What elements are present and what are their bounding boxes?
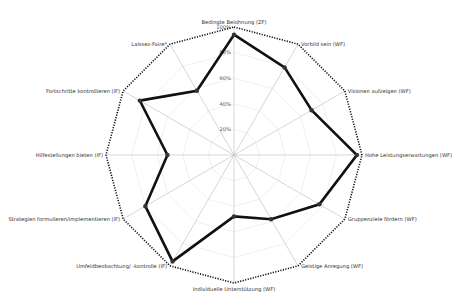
data-point [170, 259, 174, 263]
profile-series [140, 35, 357, 262]
axis-label: Vorbild sein (WF) [301, 41, 345, 47]
tick-label: 60% [219, 75, 231, 81]
data-point [232, 32, 236, 36]
axis-label: Fortschritte kontrollieren (IF) [46, 88, 120, 94]
data-point [232, 214, 236, 218]
axis-spoke [234, 155, 298, 266]
axis-label: Geistige Anregung (WF) [301, 263, 363, 270]
axis-labels: Bedingte Belohnung (ZF)Vorbild sein (WF)… [8, 19, 452, 293]
data-point [282, 65, 286, 69]
axis-spoke [234, 44, 298, 155]
data-point [143, 204, 147, 208]
axis-label: Hilfestellungen bieten (IF) [36, 152, 103, 159]
axis-spoke [234, 91, 345, 155]
data-point [138, 98, 142, 102]
radar-spokes [106, 27, 362, 283]
axis-label: Laissez-Faire* [131, 41, 167, 47]
axis-spoke [234, 155, 345, 219]
data-point [195, 89, 199, 93]
axis-label: Bedingte Belohnung (ZF) [202, 19, 267, 26]
radar-chart: 20%40%60%80%100% Bedingte Belohnung (ZF)… [0, 0, 458, 301]
data-point [165, 153, 169, 157]
axis-label: Umfeldbeobachtung/ -kontrolle (IF) [76, 263, 167, 270]
axis-spoke [170, 155, 234, 266]
axis-spoke [170, 44, 234, 155]
data-point [317, 202, 321, 206]
axis-label: Gruppenziele fördern (WF) [348, 216, 417, 223]
series-markers [138, 32, 360, 263]
axis-label: Visionen aufzeigen (WF) [348, 88, 411, 95]
data-point [269, 217, 273, 221]
tick-label: 40% [219, 101, 231, 107]
axis-label: Strategien formulieren/implementieren (I… [8, 216, 120, 223]
axis-label: Individuelle Unterstützung (WF) [193, 286, 275, 293]
data-point [309, 108, 313, 112]
tick-label: 20% [219, 126, 231, 132]
axis-spoke [123, 155, 234, 219]
data-point [355, 153, 359, 157]
axis-label: Hohe Leistungserwartungen (WF) [365, 152, 452, 159]
